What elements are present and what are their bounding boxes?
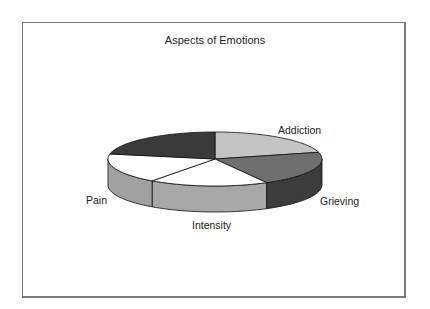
slice-label-grieving: Grieving	[320, 195, 359, 207]
slice-label-pain: Pain	[86, 194, 107, 206]
slice-unlabeled	[110, 132, 215, 159]
slice-label-intensity: Intensity	[192, 219, 231, 231]
slice-label-addiction: Addiction	[278, 124, 321, 136]
pie-chart	[0, 0, 430, 309]
